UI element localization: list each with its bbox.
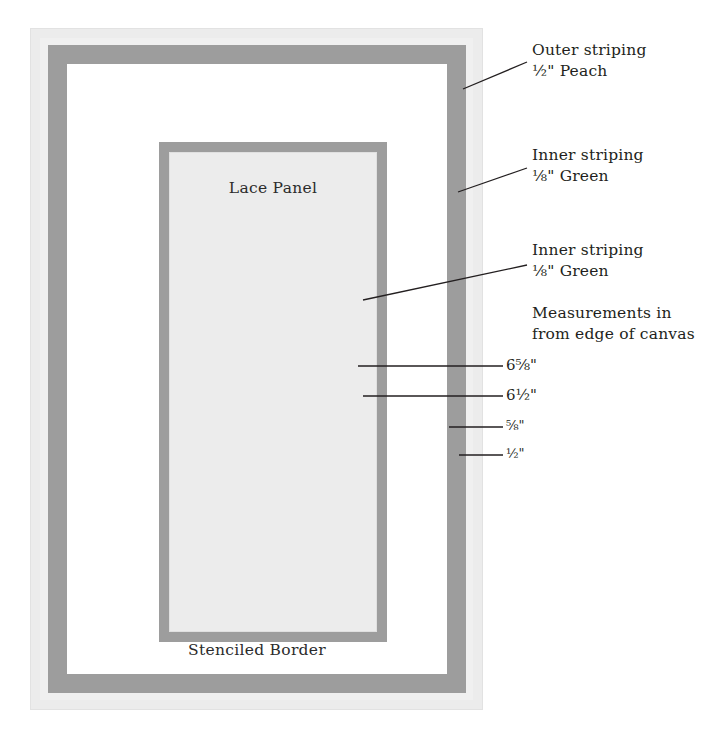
annotation-outer-striping-line2: ½" Peach xyxy=(532,61,647,82)
annotation-inner-striping-upper-line2: ⅛" Green xyxy=(532,166,644,187)
canvas-sheet: Lace Panel Stenciled Border xyxy=(30,28,483,710)
annotation-measurements-note-line1: Measurements in xyxy=(532,304,672,322)
annotation-inner-striping-upper-line1: Inner striping xyxy=(532,146,644,164)
measure-label-lace-panel-outer: 6⅝" xyxy=(506,356,537,374)
stenciled-border-label: Stenciled Border xyxy=(48,641,466,659)
lace-panel: Lace Panel xyxy=(159,142,387,642)
measure-label-outer-stripe-outer: ½" xyxy=(506,446,525,461)
annotation-outer-striping: Outer striping ½" Peach xyxy=(532,40,647,82)
measure-label-outer-stripe-inner: ⅝" xyxy=(506,418,525,433)
annotation-inner-striping-upper: Inner striping ⅛" Green xyxy=(532,145,644,187)
annotation-inner-striping-lower-line1: Inner striping xyxy=(532,241,644,259)
measure-label-lace-panel-inner: 6½" xyxy=(506,386,537,404)
lace-panel-fill: Lace Panel xyxy=(169,152,377,632)
lace-panel-label: Lace Panel xyxy=(170,179,376,197)
annotation-inner-striping-lower: Inner striping ⅛" Green xyxy=(532,240,644,282)
annotation-measurements-note-line2: from edge of canvas xyxy=(532,324,695,345)
annotation-measurements-note: Measurements in from edge of canvas xyxy=(532,303,695,345)
diagram-stage: Lace Panel Stenciled Border Outer stripi… xyxy=(0,0,718,746)
outer-striping-band: Lace Panel xyxy=(48,45,466,693)
stenciled-border-field: Lace Panel xyxy=(67,64,447,674)
annotation-inner-striping-lower-line2: ⅛" Green xyxy=(532,261,644,282)
annotation-outer-striping-line1: Outer striping xyxy=(532,41,647,59)
